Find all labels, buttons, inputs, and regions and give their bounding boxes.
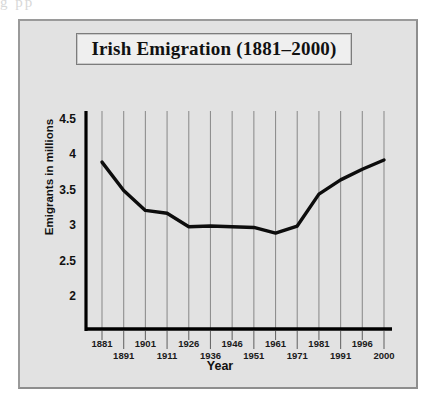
y-tick-label: 3 — [42, 218, 76, 232]
x-tick-label: 1926 — [178, 338, 199, 349]
plot-area — [20, 21, 420, 391]
scan-artifact-text: g pp — [0, 0, 436, 12]
x-tick-label: 1996 — [352, 338, 373, 349]
y-tick-label: 4.5 — [42, 112, 76, 126]
x-axis-label: Year — [20, 359, 420, 373]
chart-frame: Irish Emigration (1881–2000) Emigrants i… — [18, 19, 418, 389]
x-tick-label: 1881 — [91, 338, 112, 349]
x-tick-label: 1901 — [135, 338, 156, 349]
y-tick-label: 2.5 — [42, 254, 76, 268]
x-tick-label: 1961 — [265, 338, 286, 349]
y-tick-label: 4 — [42, 147, 76, 161]
x-tick-label: 1946 — [222, 338, 243, 349]
y-tick-label: 2 — [42, 289, 76, 303]
gridlines — [102, 111, 384, 329]
data-series-line — [102, 160, 384, 233]
y-tick-label: 3.5 — [42, 183, 76, 197]
x-tick-label: 1981 — [308, 338, 329, 349]
